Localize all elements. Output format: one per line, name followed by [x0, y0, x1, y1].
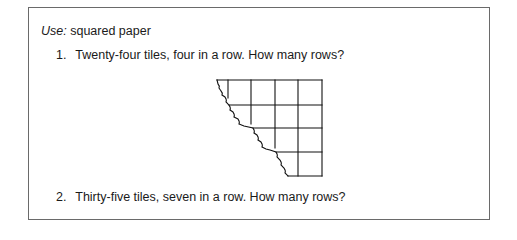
question-1: 1. Twenty-four tiles, four in a row. How… [56, 48, 344, 62]
materials-value: squared paper [70, 24, 151, 38]
question-2: 2. Thirty-five tiles, seven in a row. Ho… [56, 190, 345, 204]
question-text: Twenty-four tiles, four in a row. How ma… [75, 48, 344, 62]
question-text: Thirty-five tiles, seven in a row. How m… [75, 190, 345, 204]
tile-grid-diagram [210, 76, 330, 182]
question-number: 2. [56, 190, 72, 204]
materials-label: Use: [41, 24, 67, 38]
materials-line: Use: squared paper [41, 24, 151, 38]
torn-grid-icon [210, 76, 330, 182]
question-number: 1. [56, 48, 72, 62]
